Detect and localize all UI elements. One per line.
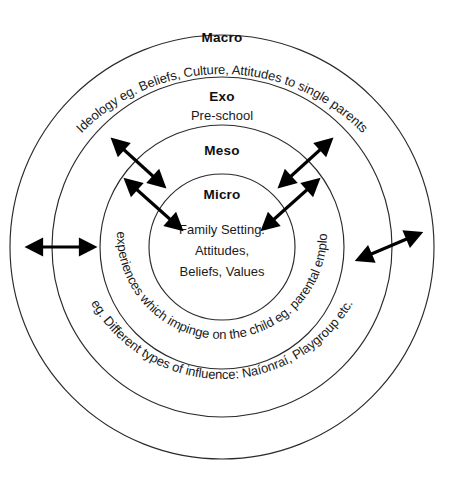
arrow-upper-left-outer-icon xyxy=(122,148,155,178)
center-text-line-1: Family Setting: xyxy=(179,222,265,237)
ring-label-meso: Meso xyxy=(204,143,239,158)
ring-label-micro: Micro xyxy=(203,187,240,202)
arrow-upper-right-outer-icon xyxy=(289,148,322,178)
diagram-canvas: Macro Exo Pre-school Meso Micro Family S… xyxy=(0,0,457,494)
ring-sublabel-exo: Pre-school xyxy=(191,108,253,123)
arrow-upper-right-inner-icon xyxy=(272,188,309,221)
center-text-line-2: Attitudes, xyxy=(195,243,249,258)
ring-label-exo: Exo xyxy=(209,89,234,104)
arrow-right-outer-icon xyxy=(369,238,409,255)
center-text-line-3: Beliefs, Values xyxy=(179,264,265,279)
ring-label-macro: Macro xyxy=(202,30,243,45)
ecological-systems-diagram: Macro Exo Pre-school Meso Micro Family S… xyxy=(0,0,457,494)
arrow-upper-left-inner-icon xyxy=(135,188,172,221)
